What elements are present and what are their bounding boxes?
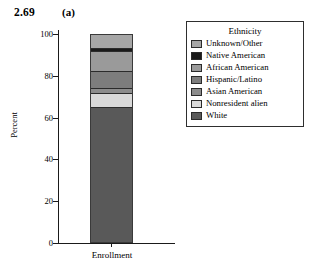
y-tick-label: 60 — [29, 114, 53, 123]
legend-swatch-icon — [191, 64, 202, 72]
bar-segment-white — [91, 108, 132, 243]
y-tick-mark — [53, 76, 58, 77]
legend-item: Nonresident alien — [191, 98, 299, 110]
legend-swatch-icon — [191, 88, 202, 96]
bar-segment-unknown-other — [91, 35, 132, 49]
y-axis-title: Percent — [9, 95, 19, 155]
x-axis-tick — [111, 243, 112, 247]
legend-item: Unknown/Other — [191, 38, 299, 50]
stacked-bar-enrollment — [90, 34, 133, 243]
y-tick-label: 100 — [29, 30, 53, 39]
legend-item: African American — [191, 62, 299, 74]
legend-item-label: Unknown/Other — [206, 39, 262, 48]
y-tick-label: 80 — [29, 72, 53, 81]
y-tick-0: 0 — [24, 243, 53, 244]
legend-item-label: Nonresident alien — [206, 99, 268, 108]
bar-segment-hispanic-latino — [91, 72, 132, 90]
y-tick-mark — [53, 118, 58, 119]
x-axis-line — [58, 243, 175, 244]
y-tick-80: 80 — [24, 76, 53, 77]
bar-segment-african-american — [91, 52, 132, 72]
legend-swatch-icon — [191, 112, 202, 120]
legend-item: Native American — [191, 50, 299, 62]
legend-item: Asian American — [191, 86, 299, 98]
legend-item-label: White — [206, 111, 227, 120]
legend-swatch-icon — [191, 100, 202, 108]
legend-item-label: Asian American — [206, 87, 262, 96]
legend-item: Hispanic/Latino — [191, 74, 299, 86]
y-tick-20: 20 — [24, 201, 53, 202]
y-tick-label: 40 — [29, 155, 53, 164]
y-tick-mark — [53, 201, 58, 202]
legend-swatch-icon — [191, 76, 202, 84]
chart-legend: Ethnicity Unknown/OtherNative AmericanAf… — [186, 21, 304, 127]
y-tick-mark — [53, 159, 58, 160]
y-tick-label: 20 — [29, 197, 53, 206]
legend-swatch-icon — [191, 40, 202, 48]
legend-item-label: African American — [206, 63, 268, 72]
legend-title: Ethnicity — [191, 26, 299, 36]
legend-items: Unknown/OtherNative AmericanAfrican Amer… — [191, 38, 299, 122]
legend-item-label: Hispanic/Latino — [206, 75, 262, 84]
y-axis-line — [58, 30, 59, 244]
y-tick-60: 60 — [24, 118, 53, 119]
x-axis-label: Enrollment — [66, 250, 158, 260]
legend-item-label: Native American — [206, 51, 265, 60]
figure-container: 2.69 (a) Percent 020406080100 Enrollment… — [0, 0, 309, 274]
bar-segment-nonresident-alien — [91, 94, 132, 109]
y-tick-100: 100 — [24, 34, 53, 35]
legend-item: White — [191, 110, 299, 122]
y-tick-mark — [53, 34, 58, 35]
y-tick-mark — [53, 243, 58, 244]
y-tick-label: 0 — [29, 239, 53, 248]
y-tick-40: 40 — [24, 159, 53, 160]
legend-swatch-icon — [191, 52, 202, 60]
